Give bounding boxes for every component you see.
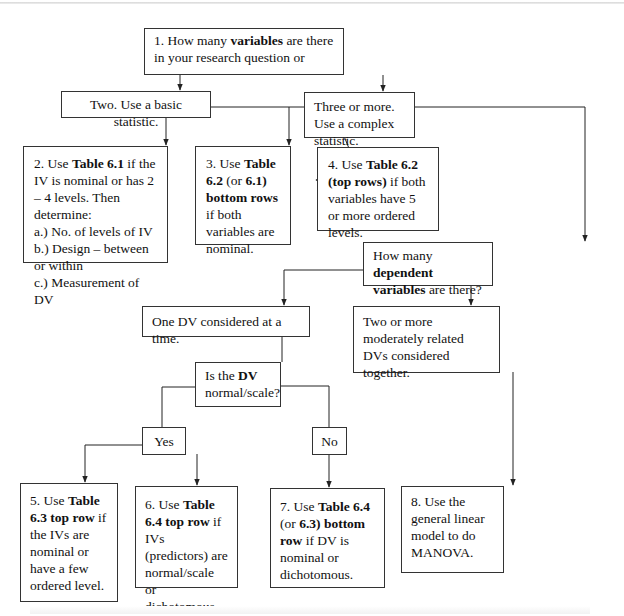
node-text: (or — [223, 173, 246, 188]
node-answer-yes: Yes — [142, 427, 186, 455]
node-question-dv-normal-scale: Is the DV normal/scale? — [195, 362, 281, 407]
cropped-caption — [30, 606, 590, 614]
node-text: Yes — [154, 434, 174, 449]
node-2-table-6-1: 2. Use Table 6.1 if the IV is nominal or… — [23, 146, 168, 263]
node-text: 7. Use — [280, 499, 318, 514]
node-text: 4. Use — [328, 157, 366, 172]
edge-three-qdv — [415, 107, 585, 241]
node-question-how-many-variables: 1. How many variables are there in your … — [144, 28, 344, 75]
node-6-table-6-4-top-row: 6. Use Table 6.4 top row if IVs (predict… — [135, 486, 238, 588]
node-text: Two or more moderately related DVs consi… — [363, 314, 464, 380]
node-one-dv-at-a-time: One DV considered at a time. — [142, 306, 310, 337]
node-text-bold: (top rows) — [328, 174, 387, 189]
edge-qnormal-yes — [162, 387, 195, 427]
node-7-table-6-4-bottom-row: 7. Use Table 6.4 (or 6.3) bottom row if … — [270, 488, 385, 588]
node-text-bold: Table 6.1 — [72, 156, 124, 171]
node-answer-no: No — [312, 427, 347, 455]
edge-yes-n5 — [85, 445, 142, 482]
edge-qnormal-no — [280, 386, 329, 427]
node-text: 6. Use — [145, 497, 183, 512]
node-text-bold: Table 6.2 — [366, 157, 418, 172]
node-text-bold: Table 6.4 — [318, 499, 370, 514]
node-text: 3. Use — [206, 156, 244, 171]
node-8-general-linear-model-manova: 8. Use the general linear model to do MA… — [401, 486, 504, 573]
node-text: 8. Use the general linear model to do MA… — [411, 494, 485, 560]
node-4-table-6-2-top-rows: 4. Use Table 6.2 (top rows) if both vari… — [317, 147, 439, 231]
node-three-or-more-complex-statistic: Three or more. Use a complex statistic. — [304, 92, 415, 138]
node-two-basic-statistic: Two. Use a basic statistic. — [61, 91, 211, 118]
node-text: (or — [280, 516, 299, 531]
node-question-how-many-dependent-variables: How many dependent variables are there? — [363, 242, 493, 286]
node-3-table-6-2-bottom-rows: 3. Use Table 6.2 (or 6.1) bottom rows if… — [195, 146, 291, 245]
node-text-bold: 6.1) — [245, 173, 266, 188]
node-text: No — [321, 434, 338, 449]
node-5-table-6-3-top-row: 5. Use Table 6.3 top row if the IVs are … — [20, 483, 118, 602]
node-text: are there? — [426, 282, 482, 297]
node-text: Is the — [205, 368, 238, 383]
node-text-bold: dependent variables — [373, 265, 433, 297]
node-text: 1. How many — [154, 33, 231, 48]
node-text-bold: 6.3) — [299, 516, 320, 531]
node-text: 5. Use — [30, 493, 68, 508]
node-text: a.) No. of levels of IV — [34, 224, 153, 239]
node-text: if IVs (predictors) are normal/scale or … — [145, 514, 228, 614]
node-text: How many — [373, 248, 433, 263]
edge-qdv-one — [284, 270, 363, 305]
node-text: 2. Use — [34, 156, 72, 171]
node-text-bold: bottom rows — [206, 190, 278, 205]
node-multiple-related-dvs: Two or more moderately related DVs consi… — [353, 306, 500, 373]
node-text-bold: DV — [238, 368, 258, 383]
node-text: normal/scale? — [205, 385, 280, 400]
node-text-bold: variables — [231, 33, 284, 48]
